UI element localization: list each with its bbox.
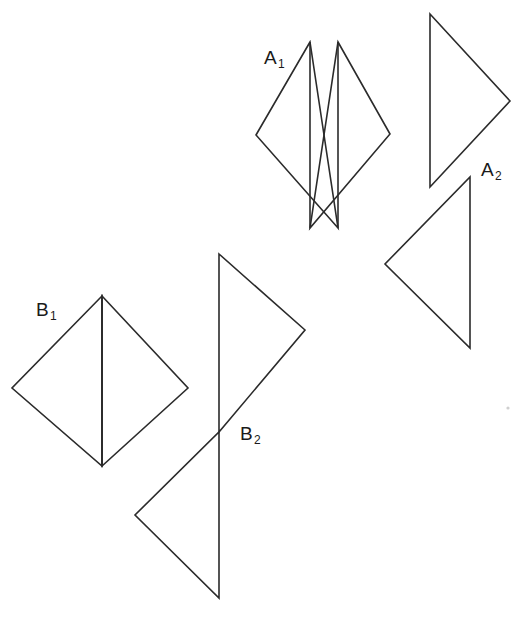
group-a2 xyxy=(385,14,510,348)
b1-triangle-left xyxy=(12,296,102,466)
group-b2 xyxy=(135,254,305,598)
label-a1: A1 xyxy=(264,48,284,67)
label-a2: A2 xyxy=(481,160,501,179)
a1-triangle-left xyxy=(256,42,338,228)
b1-triangle-right xyxy=(102,296,188,466)
label-a2-base: A xyxy=(481,159,494,180)
label-b2-base: B xyxy=(240,423,253,444)
faint-speck xyxy=(506,406,509,409)
group-b1 xyxy=(12,296,188,466)
group-a1 xyxy=(256,42,390,228)
label-b2-subscript: 2 xyxy=(254,433,261,447)
figure-canvas: A1 A2 B1 B2 xyxy=(0,0,532,620)
b2-triangle-upper xyxy=(219,254,305,432)
geometry-drawing xyxy=(0,0,532,620)
label-b2: B2 xyxy=(240,424,260,443)
label-a1-base: A xyxy=(264,47,277,68)
a2-triangle-lower xyxy=(385,177,470,348)
label-a2-subscript: 2 xyxy=(495,169,502,183)
label-b1-subscript: 1 xyxy=(50,309,57,323)
label-b1: B1 xyxy=(36,300,56,319)
b2-triangle-lower xyxy=(135,432,219,598)
a1-triangle-right xyxy=(310,42,390,228)
label-b1-base: B xyxy=(36,299,49,320)
label-a1-subscript: 1 xyxy=(278,57,285,71)
